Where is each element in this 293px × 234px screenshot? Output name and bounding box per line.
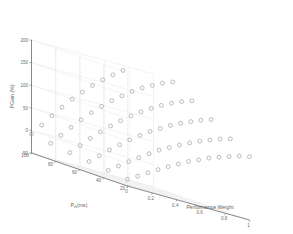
- data-point-marker: [158, 127, 162, 131]
- data-point-marker: [89, 111, 93, 115]
- z-tick-label: 150: [20, 60, 28, 65]
- data-point-marker: [68, 151, 72, 155]
- figure-3d-scatter-plot: -50050100150200 10080604020 00.20.40.60.…: [0, 0, 293, 234]
- data-point-marker: [118, 143, 122, 147]
- data-point-marker: [101, 78, 105, 82]
- data-point-marker: [161, 81, 165, 85]
- y-tick-label: 80: [48, 162, 54, 167]
- data-point-marker: [87, 160, 91, 164]
- data-point-marker: [179, 121, 183, 125]
- data-point-marker: [139, 110, 143, 114]
- data-point-marker: [109, 124, 113, 128]
- data-point-marker: [120, 94, 124, 98]
- data-point-marker: [136, 174, 140, 178]
- z-axis-title-group: PGain (%): [9, 84, 15, 108]
- data-point-marker: [100, 104, 104, 108]
- data-point-marker: [80, 90, 84, 94]
- data-point-marker: [178, 143, 182, 147]
- data-point-marker: [129, 114, 133, 118]
- x-axis-tick-mark: [176, 200, 177, 202]
- data-point-marker: [157, 148, 161, 152]
- data-point-marker: [147, 152, 151, 156]
- data-point-marker: [106, 168, 110, 172]
- data-point-marker: [167, 146, 171, 150]
- z-tick-label: 100: [20, 83, 28, 88]
- data-point-marker: [149, 106, 153, 110]
- data-point-marker: [59, 133, 63, 137]
- data-point-marker: [168, 123, 172, 127]
- data-point-marker: [119, 119, 123, 123]
- data-point-marker: [227, 155, 231, 159]
- data-point-marker: [97, 154, 101, 158]
- x-axis-line: [128, 186, 250, 220]
- data-point-marker: [146, 171, 150, 175]
- data-point-marker: [159, 103, 163, 107]
- data-point-marker: [140, 86, 144, 90]
- data-point-marker: [60, 105, 64, 109]
- x-axis-title-group: Performance Weight: [186, 204, 234, 210]
- data-point-marker: [166, 165, 170, 169]
- y-axis-tick-labels: 10080604020: [21, 153, 125, 191]
- data-point-marker: [50, 114, 54, 118]
- x-axis-title: Performance Weight: [186, 204, 234, 210]
- data-point-marker: [218, 137, 222, 141]
- data-point-marker: [217, 155, 221, 159]
- data-point-marker: [88, 136, 92, 140]
- data-point-marker: [180, 100, 184, 104]
- data-point-marker: [176, 162, 180, 166]
- data-point-marker: [49, 141, 53, 145]
- data-point-marker: [208, 138, 212, 142]
- y-axis-title-group: Pth(ms): [71, 202, 88, 209]
- data-point-marker: [137, 156, 141, 160]
- y-tick-label: 60: [72, 170, 78, 175]
- z-axis-title: PGain (%): [9, 84, 15, 108]
- data-point-marker: [40, 123, 44, 127]
- data-point-marker: [138, 133, 142, 137]
- data-point-marker: [79, 118, 83, 122]
- grid-lines: [32, 40, 250, 220]
- x-axis-tick-mark: [225, 213, 226, 215]
- data-point-marker: [156, 168, 160, 172]
- x-axis-tick-mark: [152, 193, 153, 195]
- x-tick-label: 0.8: [221, 216, 228, 221]
- data-point-marker: [110, 99, 114, 103]
- data-point-marker: [69, 125, 73, 129]
- data-point-marker: [128, 138, 132, 142]
- axis-lines: [32, 40, 250, 220]
- plot-canvas: -50050100150200 10080604020 00.20.40.60.…: [0, 0, 293, 234]
- z-axis-tick-labels: -50050100150200: [20, 38, 28, 156]
- data-point-markers: [30, 69, 252, 182]
- floor-gridline-y: [80, 170, 202, 204]
- data-point-marker: [209, 118, 213, 122]
- y-tick-label: 40: [96, 178, 102, 183]
- data-point-marker: [91, 84, 95, 88]
- data-point-marker: [130, 89, 134, 93]
- z-tick-label: 50: [23, 106, 29, 111]
- data-point-marker: [107, 148, 111, 152]
- x-axis-tick-mark: [249, 220, 250, 222]
- y-tick-label: 100: [21, 153, 29, 158]
- x-tick-label: 0.2: [148, 196, 155, 201]
- data-point-marker: [170, 101, 174, 105]
- x-tick-label: 0.6: [197, 210, 204, 215]
- data-point-marker: [248, 155, 252, 159]
- data-point-marker: [121, 69, 125, 73]
- z-tick-label: 200: [20, 38, 28, 43]
- y-axis-title-unit: (ms): [77, 202, 88, 208]
- backwall-gridline-horizontal: [32, 153, 154, 187]
- data-point-marker: [197, 158, 201, 162]
- y-axis-title: Pth(ms): [71, 202, 88, 209]
- x-tick-label: 0: [125, 189, 128, 194]
- data-point-marker: [199, 118, 203, 122]
- axis-tick-marks: [29, 40, 250, 222]
- data-point-marker: [117, 164, 121, 168]
- z-tick-label: 0: [26, 128, 29, 133]
- data-point-marker: [188, 141, 192, 145]
- data-point-marker: [171, 80, 175, 84]
- data-point-marker: [111, 73, 115, 77]
- data-point-marker: [228, 137, 232, 141]
- data-point-marker: [237, 154, 241, 158]
- data-point-marker: [198, 139, 202, 143]
- data-point-marker: [189, 120, 193, 124]
- x-tick-label: 0.4: [172, 203, 179, 208]
